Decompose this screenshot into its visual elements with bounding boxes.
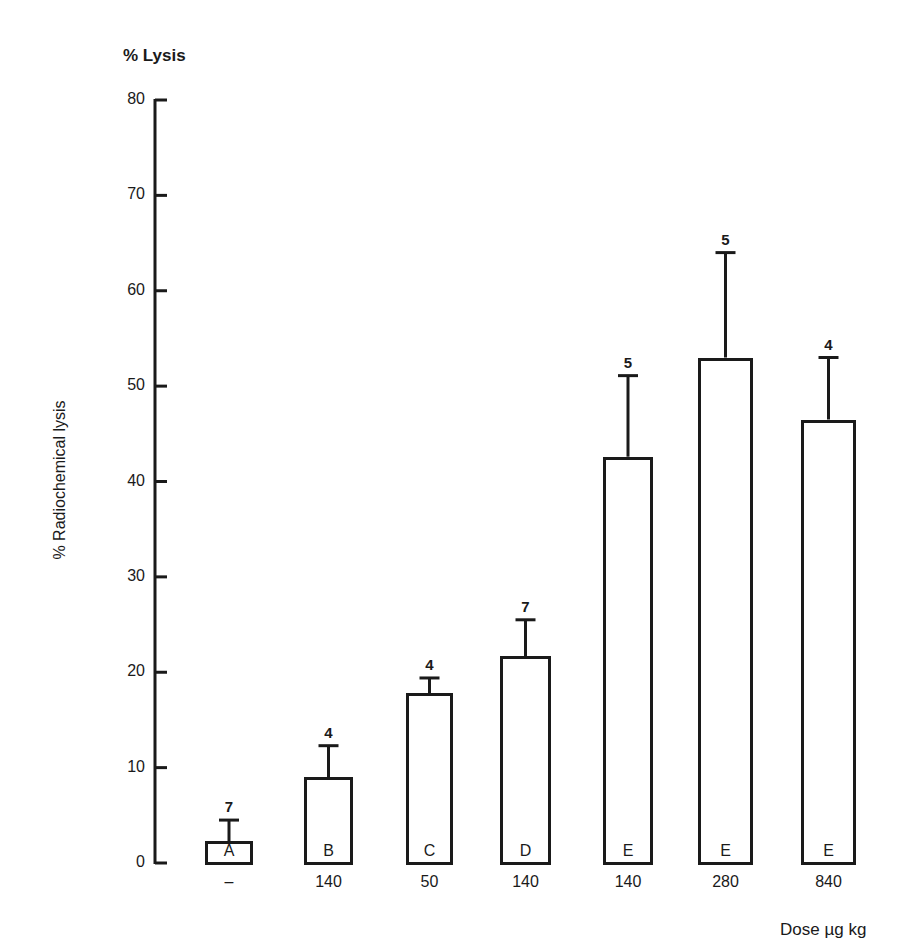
- y-tick-label: 70: [105, 185, 145, 203]
- bar-category-label: B: [304, 842, 353, 860]
- sample-size-label: 4: [314, 724, 344, 741]
- bar: [603, 457, 653, 865]
- y-tick-label: 50: [105, 376, 145, 394]
- dose-label: 140: [598, 873, 658, 891]
- bar-category-label: E: [603, 842, 653, 860]
- dose-label: 840: [799, 873, 859, 891]
- bar: [698, 358, 753, 865]
- y-tick-label: 60: [105, 281, 145, 299]
- y-tick-label: 80: [105, 90, 145, 108]
- bar: [801, 420, 856, 865]
- sample-size-label: 7: [214, 798, 244, 815]
- sample-size-label: 7: [511, 598, 541, 615]
- bar-category-label: E: [801, 842, 856, 860]
- bar: [406, 693, 453, 865]
- dose-label: 140: [299, 873, 359, 891]
- bar-category-label: A: [205, 842, 253, 860]
- y-tick-label: 30: [105, 567, 145, 585]
- sample-size-label: 5: [613, 354, 643, 371]
- dose-label: 140: [496, 873, 556, 891]
- sample-size-label: 4: [814, 336, 844, 353]
- y-tick-label: 10: [105, 758, 145, 776]
- bar: [500, 656, 551, 865]
- sample-size-label: 5: [711, 231, 741, 248]
- bar-category-label: E: [698, 842, 753, 860]
- bar-category-label: C: [406, 842, 453, 860]
- dose-label: 50: [400, 873, 460, 891]
- dose-label: 280: [696, 873, 756, 891]
- y-tick-label: 20: [105, 662, 145, 680]
- dose-label: –: [199, 873, 259, 891]
- y-tick-label: 40: [105, 472, 145, 490]
- bar-category-label: D: [500, 842, 551, 860]
- sample-size-label: 4: [415, 656, 445, 673]
- y-tick-label: 0: [105, 853, 145, 871]
